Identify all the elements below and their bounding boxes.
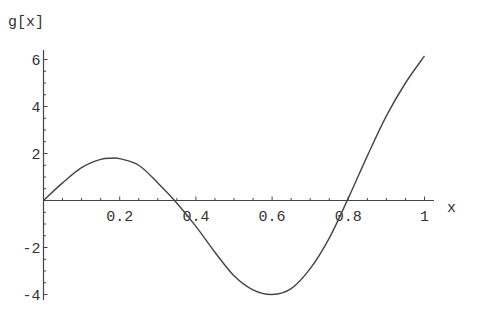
- line-chart: g[x] x -4-2246 0.20.40.60.81: [0, 0, 480, 322]
- y-tick-label: -2: [22, 241, 40, 258]
- y-axis-label: g[x]: [8, 14, 44, 31]
- x-tick-label: 0.2: [106, 209, 133, 226]
- y-tick-label: 2: [31, 147, 40, 164]
- y-tick-label: 6: [31, 53, 40, 70]
- y-tick-label: 4: [31, 100, 40, 117]
- x-tick-label: 0.6: [259, 209, 286, 226]
- g-curve: [44, 56, 425, 295]
- x-tick-label: 1: [420, 209, 429, 226]
- x-tick-label: 0.4: [182, 209, 209, 226]
- y-tick-label: -4: [22, 288, 40, 305]
- x-axis-label: x: [447, 200, 456, 217]
